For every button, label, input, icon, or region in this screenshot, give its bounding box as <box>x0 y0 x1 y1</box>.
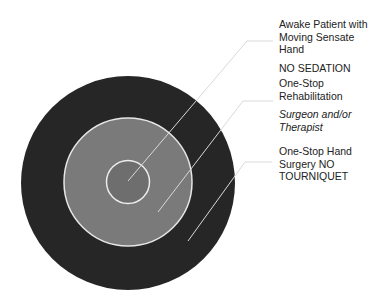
label-inner-title-2: Moving Sensate <box>279 31 368 44</box>
label-outer-title-2: Surgery NO <box>279 158 352 171</box>
label-middle-subtitle-2: Therapist <box>279 121 351 134</box>
label-middle-title-2: Rehabilitation <box>279 90 351 103</box>
inner-circle <box>107 161 150 204</box>
label-outer-title-1: One-Stop Hand <box>279 145 352 158</box>
label-middle-ring: One-Stop Rehabilitation Surgeon and/or T… <box>279 77 351 133</box>
label-middle-title-1: One-Stop <box>279 77 351 90</box>
label-inner-ring: Awake Patient with Moving Sensate Hand N… <box>279 18 368 74</box>
label-inner-title-3: Hand <box>279 43 368 56</box>
label-inner-subtitle: NO SEDATION <box>279 62 368 75</box>
label-middle-subtitle-1: Surgeon and/or <box>279 108 351 121</box>
label-inner-title-1: Awake Patient with <box>279 18 368 31</box>
label-outer-title-3: TOURNIQUET <box>279 170 352 183</box>
label-outer-ring: One-Stop Hand Surgery NO TOURNIQUET <box>279 145 352 183</box>
